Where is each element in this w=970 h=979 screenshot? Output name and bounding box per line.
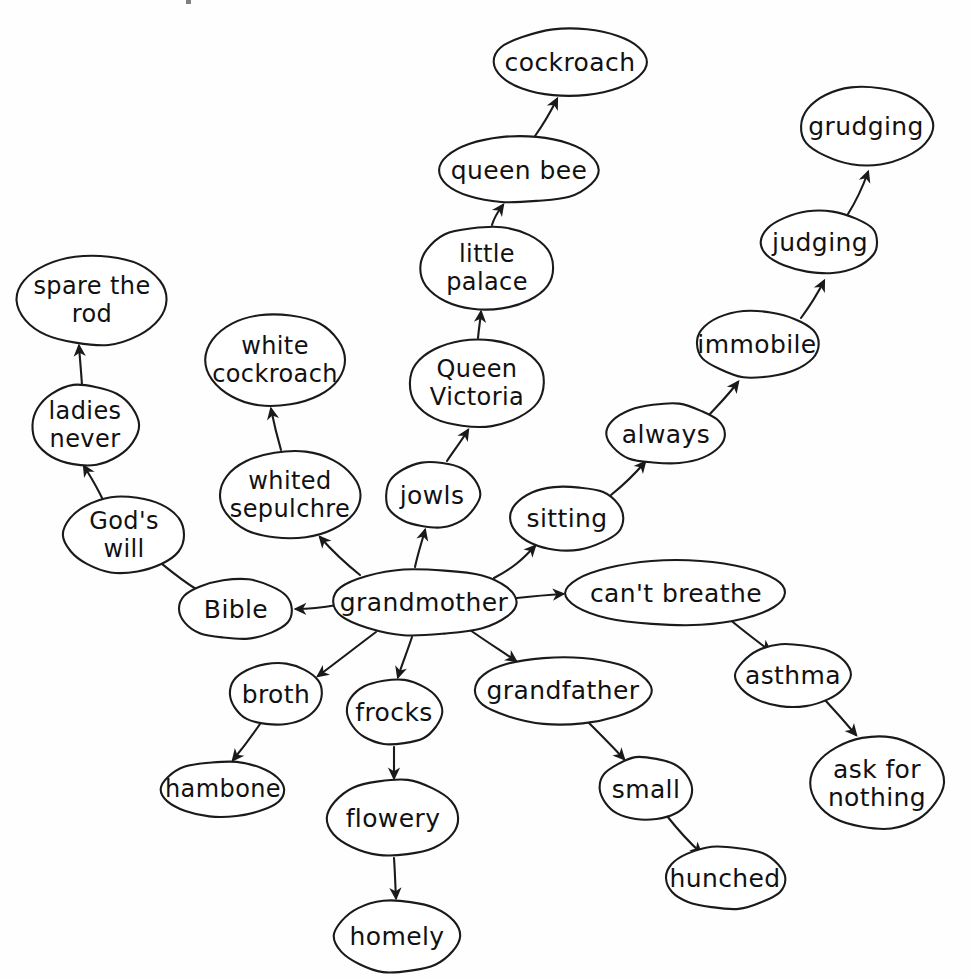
node-sitting[interactable]: sitting	[510, 487, 623, 551]
node-frocks[interactable]: frocks	[347, 679, 442, 744]
node-grandfather[interactable]: grandfather	[475, 657, 652, 724]
node-queen_bee[interactable]: queen bee	[439, 136, 599, 202]
node-label-flowery: flowery	[346, 804, 441, 833]
node-hunched[interactable]: hunched	[666, 846, 785, 909]
nodes-layer: grandmotherBibleGod'swillladiesneverspar…	[16, 28, 944, 972]
edge-flowery-to-homely	[394, 858, 396, 898]
edge-grandfather-to-small	[588, 722, 624, 759]
edge-asthma-to-ask_for_nothing	[825, 700, 856, 735]
node-ask_for_nothing[interactable]: ask fornothing	[810, 736, 944, 829]
node-bible[interactable]: Bible	[179, 579, 292, 639]
node-little_palace[interactable]: littlepalace	[420, 227, 553, 310]
node-grandmother[interactable]: grandmother	[333, 569, 516, 635]
node-label-grudging: grudging	[808, 112, 924, 141]
node-label-immobile: immobile	[697, 330, 816, 359]
node-label-grandmother: grandmother	[340, 588, 509, 617]
edge-broth-to-hambone	[233, 724, 260, 760]
node-label-judging: judging	[771, 228, 868, 257]
node-always[interactable]: always	[606, 403, 725, 463]
node-small[interactable]: small	[600, 757, 692, 820]
edge-little_palace-to-queen_bee	[492, 205, 503, 225]
node-cockroach[interactable]: cockroach	[494, 28, 647, 95]
concept-map-canvas: grandmotherBibleGod'swillladiesneverspar…	[0, 0, 970, 979]
edge-grandmother-to-frocks	[398, 637, 412, 677]
node-whited_sepulchre[interactable]: whitedsepulchre	[220, 451, 361, 538]
node-broth[interactable]: broth	[230, 663, 322, 725]
node-grudging[interactable]: grudging	[801, 87, 933, 166]
edge-grandmother-to-jowls	[415, 530, 425, 567]
node-jowls[interactable]: jowls	[386, 462, 480, 528]
node-label-bible: Bible	[204, 595, 268, 624]
node-queen_victoria[interactable]: QueenVictoria	[410, 339, 544, 426]
node-white_cockroach[interactable]: whitecockroach	[205, 314, 345, 406]
node-label-ask_for_nothing: ask fornothing	[828, 754, 926, 812]
node-judging[interactable]: judging	[761, 211, 877, 274]
node-label-asthma: asthma	[745, 661, 841, 690]
node-hambone[interactable]: hambone	[161, 762, 284, 817]
node-asthma[interactable]: asthma	[735, 644, 851, 707]
node-label-broth: broth	[242, 680, 311, 709]
node-label-jowls: jowls	[399, 481, 465, 510]
edge-always-to-immobile	[710, 382, 738, 414]
concept-map-svg: grandmotherBibleGod'swillladiesneverspar…	[0, 0, 970, 979]
edge-ladies_never-to-spare_the_rod	[79, 346, 82, 385]
edge-queen_bee-to-cockroach	[535, 99, 557, 136]
node-cant_breathe[interactable]: can't breathe	[565, 560, 785, 625]
node-label-queen_bee: queen bee	[451, 156, 588, 185]
edge-grandmother-to-sitting	[494, 546, 535, 578]
edge-grandmother-to-whited_sepulchre	[320, 537, 360, 575]
node-gods_will[interactable]: God'swill	[63, 497, 184, 574]
edge-gods_will-to-ladies_never	[84, 466, 103, 500]
edge-immobile-to-judging	[801, 281, 824, 318]
node-label-always: always	[622, 420, 710, 449]
edge-cant_breathe-to-asthma	[728, 618, 770, 651]
edge-sitting-to-always	[611, 462, 645, 495]
node-label-ladies_never: ladiesnever	[49, 397, 122, 452]
node-label-sitting: sitting	[526, 504, 607, 533]
node-ladies_never[interactable]: ladiesnever	[32, 385, 139, 466]
node-homely[interactable]: homely	[334, 900, 461, 972]
node-label-hambone: hambone	[165, 775, 281, 803]
node-label-cockroach: cockroach	[505, 48, 636, 77]
edge-grandmother-to-cant_breathe	[517, 594, 563, 598]
edge-judging-to-grudging	[848, 172, 868, 214]
node-label-hunched: hunched	[669, 864, 780, 893]
edge-small-to-hunched	[667, 816, 701, 853]
node-label-cant_breathe: can't breathe	[590, 579, 762, 608]
edge-grandmother-to-grandfather	[470, 630, 516, 661]
edge-whited_sepulchre-to-white_cockroach	[271, 409, 281, 450]
edge-jowls-to-queen_victoria	[447, 430, 468, 461]
node-spare_the_rod[interactable]: spare therod	[16, 256, 166, 346]
node-flowery[interactable]: flowery	[327, 779, 458, 855]
edge-grandmother-to-broth	[318, 632, 376, 676]
node-label-small: small	[612, 775, 681, 804]
node-label-grandfather: grandfather	[486, 676, 639, 705]
edge-grandmother-to-bible	[296, 605, 337, 609]
node-label-homely: homely	[349, 922, 444, 951]
edge-queen_victoria-to-little_palace	[478, 312, 481, 338]
node-label-queen_victoria: QueenVictoria	[430, 355, 524, 410]
node-immobile[interactable]: immobile	[697, 311, 819, 378]
node-label-frocks: frocks	[355, 698, 432, 727]
